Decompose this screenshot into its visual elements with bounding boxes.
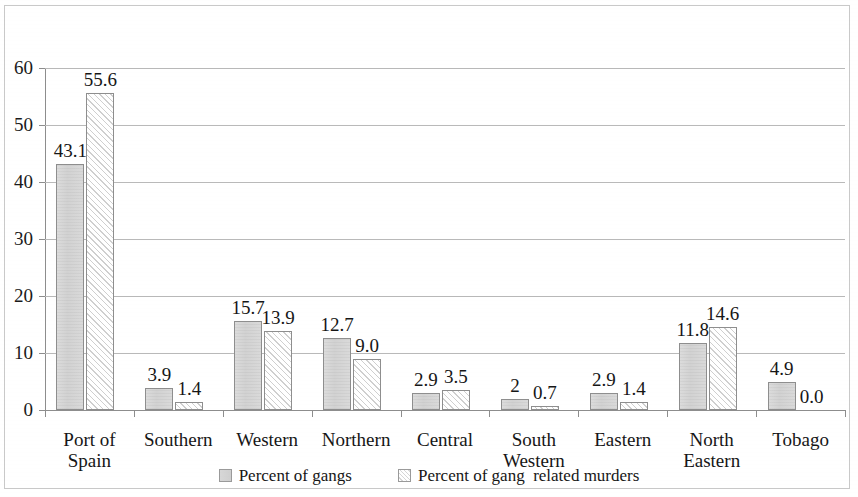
category-label: Western	[223, 429, 312, 450]
category-label: Central	[401, 429, 490, 450]
bar	[56, 164, 84, 410]
chart-legend: Percent of gangsPercent of gang related …	[0, 466, 858, 485]
x-tick-mark	[223, 410, 224, 417]
legend-swatch-icon	[398, 469, 411, 482]
legend-label: Percent of gang related murders	[418, 466, 639, 485]
bar	[620, 402, 648, 410]
bar-group: 2.91.4	[578, 68, 667, 410]
legend-swatch-icon	[219, 469, 232, 482]
category-label: NorthEastern	[667, 429, 756, 471]
x-tick-mark	[756, 410, 757, 417]
bar	[234, 321, 262, 410]
bar	[709, 327, 737, 410]
x-tick-mark	[401, 410, 402, 417]
x-tick-mark	[845, 410, 846, 417]
category-label: SouthWestern	[489, 429, 578, 471]
bar-value-label: 12.7	[314, 315, 360, 334]
bar	[353, 359, 381, 410]
y-tick-label-20: 20	[0, 286, 33, 305]
x-tick-mark	[134, 410, 135, 417]
bar	[442, 390, 470, 410]
category-label: Southern	[134, 429, 223, 450]
category-label-line1: Southern	[144, 429, 213, 450]
y-tick-label-30: 30	[0, 229, 33, 248]
y-tick-label-0: 0	[0, 400, 33, 419]
category-label-line1: Tobago	[772, 429, 829, 450]
legend-item[interactable]: Percent of gangs	[219, 466, 352, 485]
bar	[412, 393, 440, 410]
bar-value-label: 0.7	[522, 383, 568, 402]
category-label: Port ofSpain	[45, 429, 134, 471]
category-label: Northern	[312, 429, 401, 450]
bar-group: 3.91.4	[134, 68, 223, 410]
bar	[175, 402, 203, 410]
bar-group: 20.7	[489, 68, 578, 410]
bar-group: 11.814.6	[667, 68, 756, 410]
y-tick-label-50: 50	[0, 115, 33, 134]
category-label-line1: Port of	[63, 429, 115, 450]
category-label-line1: Eastern	[594, 429, 651, 450]
bar-group: 43.155.6	[45, 68, 134, 410]
category-label-line1: South	[512, 429, 556, 450]
category-label: Tobago	[756, 429, 845, 450]
y-tick-label-60: 60	[0, 58, 33, 77]
x-tick-mark	[489, 410, 490, 417]
legend-label: Percent of gangs	[239, 466, 352, 485]
x-tick-mark	[312, 410, 313, 417]
category-label-line1: Central	[417, 429, 473, 450]
bar-group: 4.90.0	[756, 68, 845, 410]
plot-area: 43.155.63.91.415.713.912.79.02.93.520.72…	[45, 68, 845, 410]
x-tick-mark	[578, 410, 579, 417]
category-label-line1: Western	[236, 429, 298, 450]
gridline-0	[45, 410, 845, 411]
category-label-line1: Northern	[322, 429, 391, 450]
bar	[531, 406, 559, 410]
bar-group: 15.713.9	[223, 68, 312, 410]
bar-value-label: 4.9	[759, 359, 805, 378]
category-label-line1: North	[689, 429, 733, 450]
bar-group: 12.79.0	[312, 68, 401, 410]
bar-value-label: 3.5	[433, 367, 479, 386]
bar	[86, 93, 114, 410]
bar-value-label: 1.4	[166, 379, 212, 398]
bar-value-label: 0.0	[789, 387, 835, 406]
bar-value-label: 13.9	[255, 308, 301, 327]
bar	[679, 343, 707, 410]
x-tick-mark	[45, 410, 46, 417]
y-tick-label-40: 40	[0, 172, 33, 191]
y-tick-label-10: 10	[0, 343, 33, 362]
category-label: Eastern	[578, 429, 667, 450]
x-tick-mark	[667, 410, 668, 417]
bar-value-label: 1.4	[611, 379, 657, 398]
bar-group: 2.93.5	[401, 68, 490, 410]
grouped-bar-chart: 0102030405060 43.155.63.91.415.713.912.7…	[0, 0, 858, 497]
legend-item[interactable]: Percent of gang related murders	[398, 466, 639, 485]
bar-value-label: 55.6	[77, 70, 123, 89]
bar	[264, 331, 292, 410]
bar-value-label: 14.6	[700, 304, 746, 323]
bar-value-label: 9.0	[344, 336, 390, 355]
